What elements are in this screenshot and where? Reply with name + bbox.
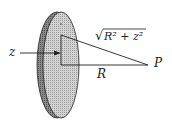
label-z: z bbox=[9, 45, 15, 59]
label-hypotenuse: R² + z² bbox=[104, 30, 143, 43]
label-sqrt-symbol: √ bbox=[95, 28, 103, 43]
top-mark bbox=[60, 23, 61, 24]
label-R: R bbox=[97, 67, 106, 81]
label-P: P bbox=[154, 56, 162, 70]
disk-diagram bbox=[0, 0, 172, 122]
